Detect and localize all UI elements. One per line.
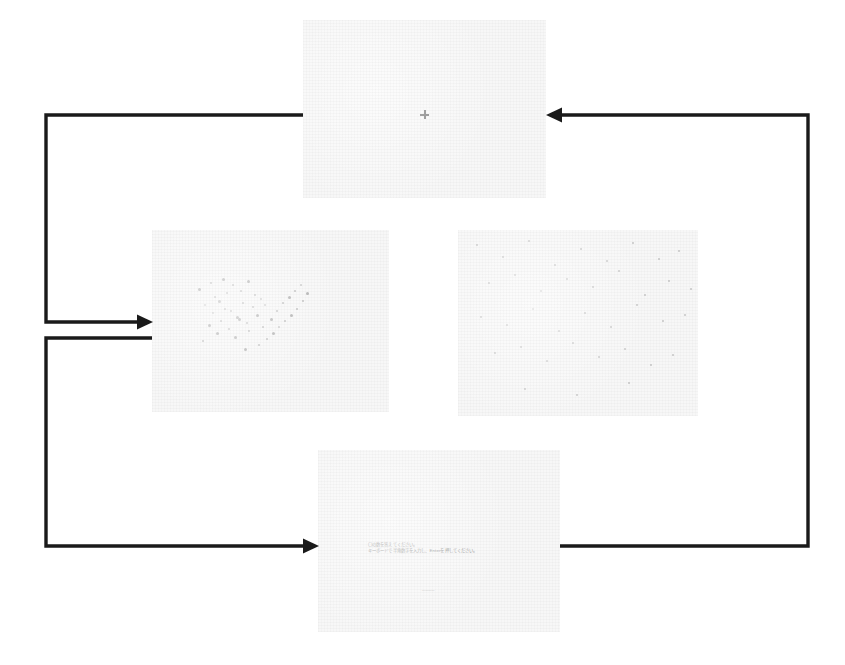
stimulus-dot (288, 296, 291, 299)
stimulus-dot (632, 242, 634, 244)
stimulus-dot (246, 322, 248, 324)
stimulus-dot (208, 324, 211, 327)
stimulus-dot (260, 298, 262, 300)
stimulus-dot (276, 310, 278, 312)
stimulus-dot (248, 330, 250, 332)
stimulus-dot (480, 316, 482, 318)
stimulus-dot (264, 304, 266, 306)
stimulus-dot (662, 320, 664, 322)
stimulus-dot (672, 354, 674, 356)
stimulus-dot (540, 290, 542, 292)
stimulus-dot (558, 330, 560, 332)
stimulus-dot (210, 282, 212, 284)
stimulus-dot (212, 312, 214, 314)
stimulus-dot (628, 382, 630, 384)
stimulus-dot (576, 394, 578, 396)
stimulus-dot (618, 270, 620, 272)
clustered-dot-stimulus-panel (152, 230, 389, 412)
stimulus-dot (256, 314, 259, 317)
stimulus-dot (247, 280, 250, 283)
stimulus-dot (644, 294, 646, 296)
stimulus-dot (584, 312, 586, 314)
stimulus-dot (294, 290, 296, 292)
stimulus-dot (282, 302, 284, 304)
stimulus-dot (592, 286, 594, 288)
stimulus-dot (266, 338, 268, 340)
stimulus-dot (232, 284, 234, 286)
stimulus-dot (238, 318, 241, 321)
stimulus-dot (240, 290, 242, 292)
stimulus-dot (488, 282, 490, 284)
stimulus-dot (270, 318, 273, 321)
stimulus-dot (494, 352, 496, 354)
stimulus-dot (506, 324, 508, 326)
figure-canvas: 〇の数を答えてください。 キーボードで半角数字を入力し、Enterを押してくださ… (0, 0, 845, 665)
stimulus-dot (202, 340, 204, 342)
stimulus-dot (580, 248, 582, 250)
stimulus-dot (222, 278, 225, 281)
stimulus-dot (244, 348, 247, 351)
stimulus-dot (546, 360, 548, 362)
stimulus-dot (234, 336, 237, 339)
stimulus-dot (678, 250, 680, 252)
stimulus-dot (668, 280, 670, 282)
stimulus-dot (252, 306, 254, 308)
stimulus-dot (220, 320, 222, 322)
stimulus-dot (598, 356, 600, 358)
stimulus-dot (520, 346, 522, 348)
stimulus-dot (684, 314, 686, 316)
stimulus-dot (502, 256, 504, 258)
stimulus-dot (258, 344, 260, 346)
stimulus-dot (476, 244, 478, 246)
response-prompt-panel: 〇の数を答えてください。 キーボードで半角数字を入力し、Enterを押してくださ… (318, 450, 560, 632)
stimulus-dot (230, 310, 232, 312)
fixation-cross-icon (420, 110, 429, 119)
stimulus-dot (198, 288, 201, 291)
stimulus-dot (224, 308, 226, 310)
stimulus-dot (226, 292, 228, 294)
stimulus-dot (204, 304, 206, 306)
stimulus-dot (284, 320, 286, 322)
stimulus-dot (658, 258, 660, 260)
response-prompt-line-2: キーボードで半角数字を入力し、Enterを押してください。 (368, 548, 477, 554)
stimulus-dot (572, 342, 574, 344)
stimulus-dot (528, 240, 530, 242)
stimulus-dot (636, 304, 638, 306)
stimulus-dot (254, 294, 256, 296)
stimulus-dot (554, 264, 556, 266)
stimulus-dot (218, 300, 221, 303)
fixation-panel (303, 20, 546, 198)
answer-input-field[interactable]: ____ (422, 585, 435, 591)
stimulus-dot (290, 314, 293, 317)
stimulus-dot (214, 296, 216, 298)
stimulus-dot (300, 284, 302, 286)
stimulus-dot (690, 288, 692, 290)
stimulus-dot (606, 260, 608, 262)
scattered-dot-array (458, 230, 698, 416)
stimulus-dot (216, 332, 219, 335)
stimulus-dot (306, 292, 309, 295)
stimulus-dot (228, 328, 230, 330)
stimulus-dot (302, 300, 304, 302)
stimulus-dot (242, 302, 244, 304)
stimulus-dot (262, 326, 264, 328)
clustered-dot-array (152, 230, 389, 412)
stimulus-dot (650, 364, 652, 366)
scattered-dot-stimulus-panel (458, 230, 698, 416)
stimulus-dot (278, 326, 280, 328)
stimulus-dot (566, 278, 568, 280)
fixation-panel-content (303, 20, 546, 198)
stimulus-dot (272, 332, 275, 335)
stimulus-dot (296, 308, 298, 310)
stimulus-dot (514, 274, 516, 276)
response-panel-content: 〇の数を答えてください。 キーボードで半角数字を入力し、Enterを押してくださ… (318, 450, 560, 632)
stimulus-dot (524, 388, 526, 390)
response-prompt-line-1: 〇の数を答えてください。 (368, 542, 417, 548)
stimulus-dot (532, 308, 534, 310)
stimulus-dot (610, 326, 612, 328)
stimulus-dot (624, 348, 626, 350)
